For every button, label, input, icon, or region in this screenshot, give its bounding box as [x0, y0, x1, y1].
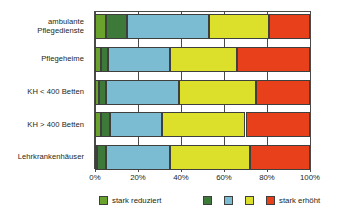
- category-label-line: Pflegedienste: [0, 26, 84, 35]
- bar-segment: [95, 80, 99, 105]
- category-label-line: KH > 400 Betten: [0, 120, 84, 129]
- bar-segment: [101, 112, 110, 137]
- bar-segment: [95, 145, 97, 170]
- category-label-line: ambulante: [0, 17, 84, 26]
- legend-swatch-icon: [203, 196, 212, 205]
- category-label-line: Pflegeheime: [0, 54, 84, 63]
- bar-row: [95, 47, 310, 72]
- bar-segment: [108, 47, 170, 72]
- legend-label: stark erhöht: [279, 196, 320, 205]
- bar-segment: [162, 112, 246, 137]
- legend-swatch-icon: [245, 196, 254, 205]
- category-label: Lehrkrankenhäuser: [0, 152, 84, 161]
- bar-segment: [170, 47, 237, 72]
- category-label: KH > 400 Betten: [0, 120, 84, 129]
- category-label: ambulantePflegedienste: [0, 17, 84, 35]
- bar-segment: [99, 80, 105, 105]
- legend-swatch-icon: [266, 196, 275, 205]
- bar-segment: [95, 112, 101, 137]
- legend-item[interactable]: [245, 192, 254, 208]
- bar-segment: [127, 14, 209, 39]
- legend-label: stark reduziert: [112, 196, 161, 205]
- plot-area: [95, 12, 310, 168]
- x-tick-label: 80%: [247, 173, 287, 182]
- category-label-line: Lehrkrankenhäuser: [0, 152, 84, 161]
- bar-row: [95, 14, 310, 39]
- x-tick-label: 40%: [161, 173, 201, 182]
- category-axis-labels: ambulantePflegedienstePflegeheimeKH < 40…: [0, 12, 88, 168]
- bar-segment: [95, 47, 101, 72]
- gridline: [310, 12, 311, 168]
- x-axis-tick-labels: 0%20%40%60%80%100%: [60, 173, 342, 185]
- bar-segment: [106, 14, 128, 39]
- legend-swatch-icon: [224, 196, 233, 205]
- x-tick-label: 20%: [118, 173, 158, 182]
- legend-item[interactable]: stark reduziert: [99, 192, 161, 208]
- legend-swatch-icon: [99, 196, 108, 205]
- bar-segment: [101, 47, 107, 72]
- category-label: KH < 400 Betten: [0, 87, 84, 96]
- stacked-bar-chart: ambulantePflegedienstePflegeheimeKH < 40…: [0, 0, 342, 216]
- bar-segment: [97, 145, 106, 170]
- bar-segment: [256, 80, 310, 105]
- legend-item[interactable]: [203, 192, 212, 208]
- bar-segment: [170, 145, 250, 170]
- x-tick-label: 0%: [75, 173, 115, 182]
- bar-segment: [106, 145, 171, 170]
- category-label-line: KH < 400 Betten: [0, 87, 84, 96]
- bar-segment: [269, 14, 310, 39]
- bar-row: [95, 145, 310, 170]
- x-tick: [310, 168, 311, 172]
- bar-segment: [110, 112, 162, 137]
- bar-row: [95, 112, 310, 137]
- bar-segment: [179, 80, 256, 105]
- bar-segment: [95, 14, 106, 39]
- chart-legend: stark reduziertstark erhöht: [0, 192, 342, 212]
- bar-segment: [250, 145, 310, 170]
- x-tick-label: 100%: [290, 173, 330, 182]
- bar-segment: [237, 47, 310, 72]
- legend-item[interactable]: [224, 192, 233, 208]
- bar-row: [95, 80, 310, 105]
- legend-item[interactable]: stark erhöht: [266, 192, 320, 208]
- bar-segment: [209, 14, 269, 39]
- x-tick-label: 60%: [204, 173, 244, 182]
- category-label: Pflegeheime: [0, 54, 84, 63]
- bar-segment: [246, 112, 311, 137]
- bar-segment: [106, 80, 179, 105]
